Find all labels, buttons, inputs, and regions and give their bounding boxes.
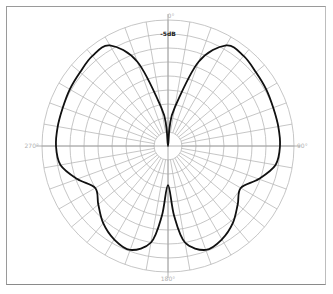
angle-tick-label-90: 90° <box>297 142 308 149</box>
grid-spoke <box>182 124 292 143</box>
grid-spoke <box>180 83 277 139</box>
grid-spoke <box>170 22 189 132</box>
grid-spoke <box>59 83 156 139</box>
grid-spoke <box>105 37 161 134</box>
radial-ring-label: -5dB <box>160 30 176 37</box>
angle-tick-label-180: 180° <box>161 275 175 282</box>
grid-spoke <box>44 124 154 143</box>
grid-spoke <box>175 37 231 134</box>
grid-spoke <box>59 153 156 209</box>
polar-chart: 0° 90° 180° 270° -5dB <box>0 0 333 294</box>
angle-tick-label-270: 270° <box>25 142 39 149</box>
angle-tick-label-0: 0° <box>168 12 175 19</box>
grid-spoke <box>146 22 165 132</box>
grid-spoke <box>180 153 277 209</box>
